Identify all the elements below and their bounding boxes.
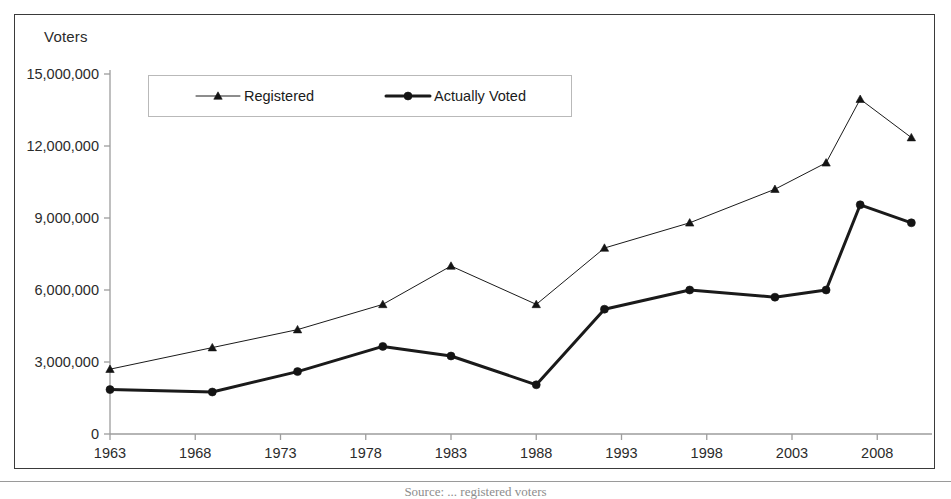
y-tick-label: 12,000,000 xyxy=(26,138,99,154)
circle-marker-icon xyxy=(384,88,432,104)
x-tick-label: 1963 xyxy=(94,445,126,461)
circle-marker-icon xyxy=(771,293,779,301)
triangle-marker-icon xyxy=(447,262,455,269)
x-tick-label: 1988 xyxy=(520,445,552,461)
triangle-marker-icon xyxy=(532,300,540,307)
circle-marker-icon xyxy=(907,219,915,227)
circle-marker-icon xyxy=(856,201,864,209)
circle-marker-icon xyxy=(208,388,216,396)
x-tick-label: 1968 xyxy=(179,445,211,461)
x-tick-label: 1983 xyxy=(435,445,467,461)
series-line xyxy=(110,205,911,392)
triangle-marker-icon xyxy=(822,159,830,166)
triangle-marker-icon xyxy=(771,185,779,192)
legend-label: Actually Voted xyxy=(434,88,526,104)
series-line xyxy=(110,99,911,369)
legend-entry-actually-voted[interactable]: Actually Voted xyxy=(384,88,526,104)
circle-marker-icon xyxy=(447,352,455,360)
legend-label: Registered xyxy=(244,88,314,104)
chart-figure: Voters 03,000,0006,000,0009,000,00012,00… xyxy=(0,0,951,499)
x-tick-label: 2008 xyxy=(861,445,893,461)
legend-entry-registered[interactable]: Registered xyxy=(194,88,314,104)
y-tick-label: 6,000,000 xyxy=(34,282,99,298)
x-tick-label: 2003 xyxy=(776,445,808,461)
x-tick-label: 1993 xyxy=(605,445,637,461)
x-tick-label: 1978 xyxy=(350,445,382,461)
page-hairline xyxy=(0,481,951,482)
y-tick-label: 3,000,000 xyxy=(34,354,99,370)
circle-marker-icon xyxy=(106,386,114,394)
y-tick-label: 0 xyxy=(91,426,99,442)
y-tick-label: 9,000,000 xyxy=(34,210,99,226)
circle-marker-icon xyxy=(822,286,830,294)
series-actually-voted xyxy=(106,201,915,396)
triangle-marker-icon xyxy=(379,300,387,307)
y-tick-label: 15,000,000 xyxy=(26,66,99,82)
x-tick-label: 1998 xyxy=(691,445,723,461)
circle-marker-icon xyxy=(532,381,540,389)
circle-marker-icon xyxy=(600,305,608,313)
triangle-marker-icon xyxy=(856,95,864,102)
circle-marker-icon xyxy=(686,286,694,294)
triangle-marker-icon xyxy=(907,133,915,140)
triangle-marker-icon xyxy=(194,88,242,104)
circle-marker-icon xyxy=(379,342,387,350)
circle-marker-icon xyxy=(404,92,412,100)
triangle-marker-icon xyxy=(686,219,694,226)
series-registered xyxy=(106,95,916,372)
x-tick-label: 1973 xyxy=(264,445,296,461)
circle-marker-icon xyxy=(294,368,302,376)
chart-legend: RegisteredActually Voted xyxy=(148,75,572,117)
figure-caption: Source: ... registered voters xyxy=(0,484,951,499)
